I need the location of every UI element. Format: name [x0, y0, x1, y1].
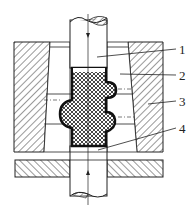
label-3: 3 [179, 94, 186, 109]
die-cross-section-diagram: 1 2 3 4 [0, 0, 193, 210]
upper-punch [70, 16, 107, 68]
label-4: 4 [179, 121, 186, 136]
label-1: 1 [179, 42, 186, 57]
label-2: 2 [179, 68, 186, 83]
